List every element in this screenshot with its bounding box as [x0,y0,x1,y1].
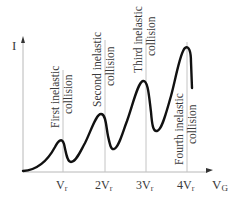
annotation-third: Third inelastic collision [132,6,157,73]
annotation-first: First inelastic collision [49,66,74,128]
tick-label-3vr: 3Vr [136,178,154,193]
tick-label-vr: Vr [56,178,68,193]
y-axis-arrow-icon [21,36,25,43]
y-axis-label: I [12,38,16,53]
svg-text:First inelastic: First inelastic [49,66,61,128]
svg-text:Second inelastic: Second inelastic [91,32,103,107]
x-axis-arrow-icon [206,168,213,173]
svg-text:Fourth inelastic: Fourth inelastic [173,93,185,165]
annotation-second: Second inelastic collision [91,32,116,107]
svg-text:collision: collision [145,16,157,56]
franck-hertz-diagram: I VG Vr 2Vr 3Vr 4Vr First inelastic [0,0,237,198]
svg-text:Third inelastic: Third inelastic [132,6,144,73]
annotations: First inelastic collision Second inelast… [49,6,198,165]
svg-text:collision: collision [62,74,74,114]
tick-label-4vr: 4Vr [177,178,195,193]
x-axis-label: VG [212,177,228,193]
annotation-fourth: Fourth inelastic collision [173,93,198,165]
svg-text:collision: collision [104,46,116,86]
x-axis: VG [23,168,228,193]
tick-label-2vr: 2Vr [95,178,113,193]
svg-text:collision: collision [186,104,198,144]
tick-labels: Vr 2Vr 3Vr 4Vr [56,178,195,193]
y-axis: I [12,36,25,172]
